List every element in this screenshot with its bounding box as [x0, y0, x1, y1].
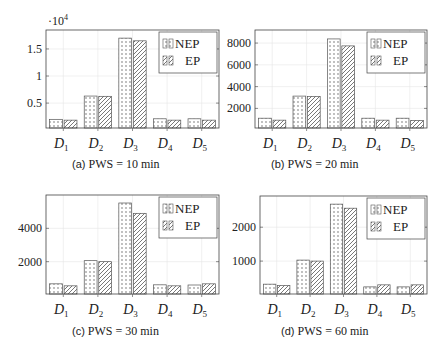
bar-ep-d2: [307, 96, 320, 128]
x-tick-label: D2: [88, 136, 104, 153]
bar-nep-d5: [188, 119, 201, 128]
bar-nep-d4: [153, 119, 166, 128]
bar-nep-d5: [397, 287, 409, 294]
legend-label-ep: EP: [393, 53, 408, 68]
bar-nep-d2: [84, 261, 97, 294]
bar-nep-d2: [293, 96, 306, 128]
caption-text: PWS = 10 min: [88, 157, 159, 171]
legend-swatch-ep: [371, 222, 375, 231]
x-tick-label: D1: [262, 136, 278, 153]
y-tick-label: 0.5: [27, 96, 42, 110]
y-tick-label: 6000: [227, 58, 251, 72]
caption-b: (b) PWS = 20 min: [271, 157, 359, 172]
bar-ep-d2: [99, 262, 112, 294]
x-tick-label: D4: [365, 136, 381, 153]
y-tick-label: 1000: [232, 254, 256, 268]
y-tick-label: 2000: [227, 101, 251, 115]
bar-nep-d3: [119, 203, 132, 294]
caption-a: (a) PWS = 10 min: [72, 157, 160, 172]
y-tick-label: 1: [36, 69, 42, 83]
bar-ep-d4: [378, 285, 390, 294]
caption-label: (d): [281, 325, 294, 337]
x-tick-label: D5: [191, 302, 207, 319]
legend: NEPEP: [159, 32, 217, 73]
legend-label-nep: NEP: [175, 201, 200, 216]
x-tick-label: D5: [399, 136, 415, 153]
chart-panel-b: 2000400060008000D1D2D3D4D5NEPEP: [224, 0, 447, 178]
bar-ep-d5: [203, 120, 216, 128]
caption-c: (c) PWS = 30 min: [72, 324, 159, 339]
legend-label-ep: EP: [185, 53, 200, 68]
bar-ep-d5: [203, 284, 216, 294]
caption-text: PWS = 20 min: [287, 157, 358, 171]
legend-swatch-nep: [163, 39, 167, 48]
bar-nep-d2: [84, 96, 97, 128]
bar-ep-d5: [411, 285, 423, 294]
y-tick-label: 4000: [227, 80, 251, 94]
x-tick-label: D1: [53, 302, 69, 319]
legend-swatch-nep: [371, 205, 375, 214]
bar-ep-d2: [311, 261, 323, 294]
y-scale-label: ·104: [48, 13, 68, 28]
bar-ep-d3: [133, 41, 146, 128]
bar-nep-d5: [396, 118, 409, 128]
bar-ep-d1: [64, 286, 77, 294]
x-tick-label: D1: [266, 302, 282, 319]
x-tick-label: D3: [331, 136, 347, 153]
legend: NEPEP: [159, 197, 217, 238]
bar-ep-d3: [342, 46, 355, 128]
bar-nep-d1: [50, 119, 63, 128]
caption-label: (c): [72, 325, 85, 337]
bar-ep-d3: [344, 208, 356, 294]
legend-label-nep: NEP: [383, 202, 408, 217]
x-tick-label: D5: [400, 302, 416, 319]
caption-label: (a): [72, 158, 85, 170]
legend: NEPEP: [367, 198, 425, 239]
bar-ep-d4: [168, 120, 181, 128]
legend-label-nep: NEP: [383, 36, 408, 51]
x-tick-label: D1: [53, 136, 69, 153]
y-tick-label: 8000: [227, 36, 251, 50]
x-tick-label: D3: [122, 136, 138, 153]
y-tick-label: 2000: [232, 220, 256, 234]
bar-nep-d2: [297, 260, 309, 294]
x-tick-label: D4: [157, 136, 173, 153]
bar-nep-d5: [188, 285, 201, 294]
bar-nep-d3: [330, 204, 342, 294]
bar-nep-d1: [264, 284, 276, 294]
bar-ep-d1: [64, 120, 77, 128]
legend-swatch-ep: [163, 56, 167, 65]
x-tick-label: D5: [191, 136, 207, 153]
bar-nep-d1: [259, 118, 272, 128]
x-tick-label: D2: [296, 136, 312, 153]
chart-svg: 2000400060008000D1D2D3D4D5NEPEP: [224, 0, 447, 178]
caption-text: PWS = 30 min: [88, 324, 159, 338]
y-tick-label: 2000: [18, 255, 42, 269]
bar-nep-d4: [364, 287, 376, 294]
legend-label-ep: EP: [185, 218, 200, 233]
bar-nep-d4: [153, 285, 166, 294]
legend-label-nep: NEP: [175, 36, 200, 51]
bar-nep-d3: [119, 38, 132, 128]
caption-label: (b): [271, 158, 284, 170]
y-tick-label: 1.5: [27, 42, 42, 56]
bar-ep-d1: [278, 286, 290, 294]
x-tick-label: D3: [122, 302, 138, 319]
bar-ep-d4: [376, 120, 389, 128]
bar-ep-d5: [411, 120, 424, 128]
caption-d: (d) PWS = 60 min: [281, 324, 369, 339]
x-tick-label: D2: [300, 302, 316, 319]
legend-swatch-nep: [163, 204, 167, 213]
chart-svg: 0.511.5·104D1D2D3D4D5NEPEP: [0, 0, 224, 178]
bar-ep-d2: [99, 96, 112, 128]
x-tick-label: D2: [88, 302, 104, 319]
legend-swatch-ep: [371, 56, 375, 65]
legend-swatch-nep: [371, 39, 375, 48]
x-tick-label: D4: [367, 302, 383, 319]
y-tick-label: 4000: [18, 221, 42, 235]
bar-nep-d1: [50, 284, 63, 294]
bar-nep-d4: [362, 118, 375, 128]
legend-swatch-ep: [163, 221, 167, 230]
chart-panel-a: 0.511.5·104D1D2D3D4D5NEPEP: [0, 0, 224, 178]
bar-ep-d1: [273, 120, 286, 128]
